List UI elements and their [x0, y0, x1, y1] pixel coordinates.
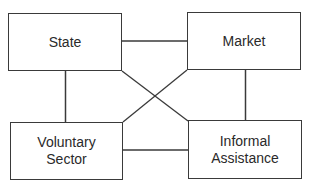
node-voluntary-sector: Voluntary Sector — [10, 122, 123, 180]
node-market: Market — [187, 12, 301, 70]
node-voluntary-sector-label: Voluntary Sector — [37, 134, 95, 168]
node-state-label: State — [49, 34, 82, 51]
edge-market-voluntary — [123, 70, 187, 122]
node-informal-assistance-label: Informal Assistance — [211, 133, 279, 167]
node-state: State — [8, 13, 122, 71]
node-market-label: Market — [223, 33, 266, 50]
node-informal-assistance: Informal Assistance — [188, 120, 302, 179]
